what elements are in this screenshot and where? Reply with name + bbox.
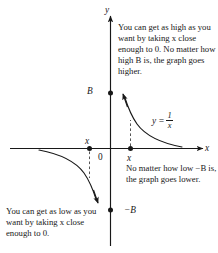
y-tick-label-B: B (87, 86, 93, 96)
hyperbola-right-branch-arrow (123, 94, 128, 107)
annotation-lower-right: No matter how low −B is, the graph goes … (126, 163, 218, 185)
y-tick-label-negative-B: −B (124, 205, 136, 215)
dot-B (108, 91, 113, 96)
hyperbola-figure: y x B −B x x 0 y = 1 x You can get as hi… (0, 0, 218, 253)
x-tick-label-right: x (127, 153, 131, 163)
y-axis-label: y (105, 5, 109, 15)
hyperbola-left-branch (39, 150, 97, 201)
origin-label: 0 (98, 152, 103, 162)
dot-x-left (87, 146, 92, 151)
equation-numerator: 1 (166, 112, 172, 121)
x-axis-label: x (205, 143, 209, 153)
dot-x-right (128, 146, 133, 151)
equation-equals: = (158, 116, 164, 126)
annotation-lower-left: You can get as low as you want by taking… (6, 206, 110, 239)
equation-fraction: 1 x (166, 112, 172, 131)
equation-denominator: x (167, 121, 173, 130)
annotation-upper-right: You can get as high as you want by takin… (118, 22, 216, 77)
equation-lhs: y (152, 116, 156, 126)
x-tick-label-left: x (85, 136, 89, 146)
hyperbola-left-branch-arrow (94, 190, 99, 203)
curve-equation-label: y = 1 x (152, 112, 173, 131)
